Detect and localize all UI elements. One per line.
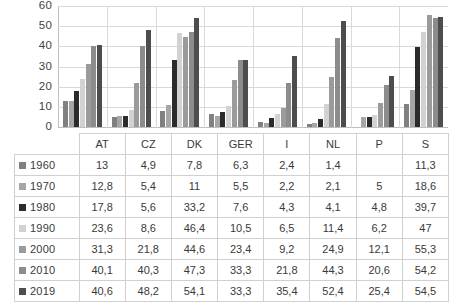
table-cell-dk-1980: 33,2	[171, 197, 217, 218]
bar-p-1980	[367, 117, 372, 127]
bar-i-1990	[275, 114, 280, 127]
table-cell-nl-2010: 44,3	[310, 260, 356, 281]
bar-p-2019	[389, 76, 394, 127]
bar-dk-2000	[183, 37, 188, 127]
bar-i-1980	[269, 118, 274, 127]
table-column-header-p: P	[356, 134, 402, 155]
bar-s-1960	[404, 104, 409, 127]
bar-dk-1970	[166, 105, 171, 127]
bar-ger-1960	[209, 114, 214, 127]
bar-nl-1960	[307, 124, 312, 127]
bar-i-2000	[281, 108, 286, 127]
table-cell-s-2019: 54,5	[402, 281, 448, 302]
table-header: ATCZDKGERINLPS	[15, 134, 449, 155]
bar-s-1980	[415, 47, 420, 127]
table-cell-nl-1970: 2,1	[310, 176, 356, 197]
table-cell-nl-1980: 4,1	[310, 197, 356, 218]
table-cell-at-1970: 12,8	[79, 176, 125, 197]
table-cell-at-1980: 17,8	[79, 197, 125, 218]
bar-dk-1980	[172, 60, 177, 127]
bar-s-1970	[410, 90, 415, 128]
legend-label: 2000	[30, 243, 55, 255]
table-cell-i-1990: 6,5	[264, 218, 310, 239]
bar-s-2000	[427, 15, 432, 127]
table-cell-i-2010: 21,8	[264, 260, 310, 281]
bar-cz-2000	[134, 83, 139, 127]
table-column-header-nl: NL	[310, 134, 356, 155]
table-cell-nl-2019: 52,4	[310, 281, 356, 302]
table-cell-i-1970: 2,2	[264, 176, 310, 197]
table-cell-s-1960: 11,3	[402, 155, 448, 176]
table-corner-cell	[15, 134, 80, 155]
bar-group-at	[58, 6, 107, 127]
bar-group-cz	[107, 6, 156, 127]
bar-i-2010	[286, 83, 291, 127]
table-cell-cz-1980: 5,6	[125, 197, 171, 218]
legend-entry-1980: 1980	[15, 197, 80, 218]
table-cell-dk-2010: 47,3	[171, 260, 217, 281]
bar-dk-1960	[160, 111, 165, 127]
bar-dk-2010	[189, 32, 194, 127]
bar-cz-1970	[117, 116, 122, 127]
bar-dk-2019	[194, 18, 199, 127]
bar-group-ger	[204, 6, 253, 127]
bar-cz-1980	[123, 116, 128, 127]
table-cell-at-1990: 23,6	[79, 218, 125, 239]
y-axis-tick-label: 10	[0, 101, 52, 113]
y-axis-tick-label: 0	[0, 121, 52, 133]
bar-at-2019	[97, 45, 102, 127]
bar-group-p	[351, 6, 400, 127]
y-axis-tick-label: 20	[0, 81, 52, 93]
table-cell-at-2000: 31,3	[79, 239, 125, 260]
table-cell-s-1990: 47	[402, 218, 448, 239]
legend-swatch-icon	[19, 288, 26, 295]
bar-cz-2010	[140, 46, 145, 127]
bar-at-2010	[91, 46, 96, 127]
table-cell-cz-1960: 4,9	[125, 155, 171, 176]
y-axis-tick-label: 60	[0, 0, 52, 12]
plot-region: 0102030405060	[0, 0, 463, 132]
table-row: 201040,140,347,333,321,844,320,654,2	[15, 260, 449, 281]
table-body: 1960134,97,86,32,41,411,3197012,85,4115,…	[15, 155, 449, 302]
legend-label: 1980	[30, 201, 55, 213]
legend-swatch-icon	[19, 246, 26, 253]
table-row: 197012,85,4115,52,22,1518,6	[15, 176, 449, 197]
bar-cz-1960	[112, 117, 117, 127]
table-cell-cz-2000: 21,8	[125, 239, 171, 260]
legend-swatch-icon	[19, 225, 26, 232]
table-cell-ger-2000: 23,4	[218, 239, 264, 260]
table-cell-i-1980: 4,3	[264, 197, 310, 218]
table-cell-p-1990: 6,2	[356, 218, 402, 239]
y-axis: 0102030405060	[0, 0, 52, 132]
table-column-header-dk: DK	[171, 134, 217, 155]
table-cell-at-2019: 40,6	[79, 281, 125, 302]
legend-entry-1960: 1960	[15, 155, 80, 176]
table-column-header-s: S	[402, 134, 448, 155]
table-row: 200031,321,844,623,49,224,912,155,3	[15, 239, 449, 260]
table-cell-nl-1960: 1,4	[310, 155, 356, 176]
legend-entry-1990: 1990	[15, 218, 80, 239]
bar-nl-2010	[335, 38, 340, 127]
table-cell-ger-1970: 5,5	[218, 176, 264, 197]
bar-nl-1970	[312, 123, 317, 127]
bar-ger-1980	[220, 112, 225, 127]
table-cell-i-1960: 2,4	[264, 155, 310, 176]
table-cell-cz-2019: 48,2	[125, 281, 171, 302]
table-cell-nl-1990: 11,4	[310, 218, 356, 239]
table-cell-cz-1970: 5,4	[125, 176, 171, 197]
table-cell-cz-1990: 8,6	[125, 218, 171, 239]
table-cell-p-2000: 12,1	[356, 239, 402, 260]
legend-entry-2019: 2019	[15, 281, 80, 302]
bar-s-2010	[433, 18, 438, 127]
legend-entry-2010: 2010	[15, 260, 80, 281]
y-axis-tick-label: 50	[0, 20, 52, 32]
table-cell-ger-1990: 10,5	[218, 218, 264, 239]
bar-nl-2019	[341, 21, 346, 127]
legend-label: 1990	[30, 222, 55, 234]
bar-at-1980	[74, 91, 79, 127]
bar-i-1960	[258, 122, 263, 127]
table-cell-at-1960: 13	[79, 155, 125, 176]
table-cell-p-2010: 20,6	[356, 260, 402, 281]
plot-area	[58, 6, 448, 128]
bar-i-1970	[264, 123, 269, 127]
